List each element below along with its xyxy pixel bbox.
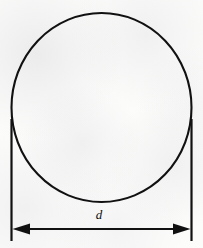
figure-canvas: d xyxy=(0,0,203,248)
diameter-label: d xyxy=(96,208,103,221)
arrowhead-left-icon xyxy=(13,223,31,234)
circle-outline xyxy=(12,13,192,202)
arrowhead-right-icon xyxy=(173,223,191,234)
